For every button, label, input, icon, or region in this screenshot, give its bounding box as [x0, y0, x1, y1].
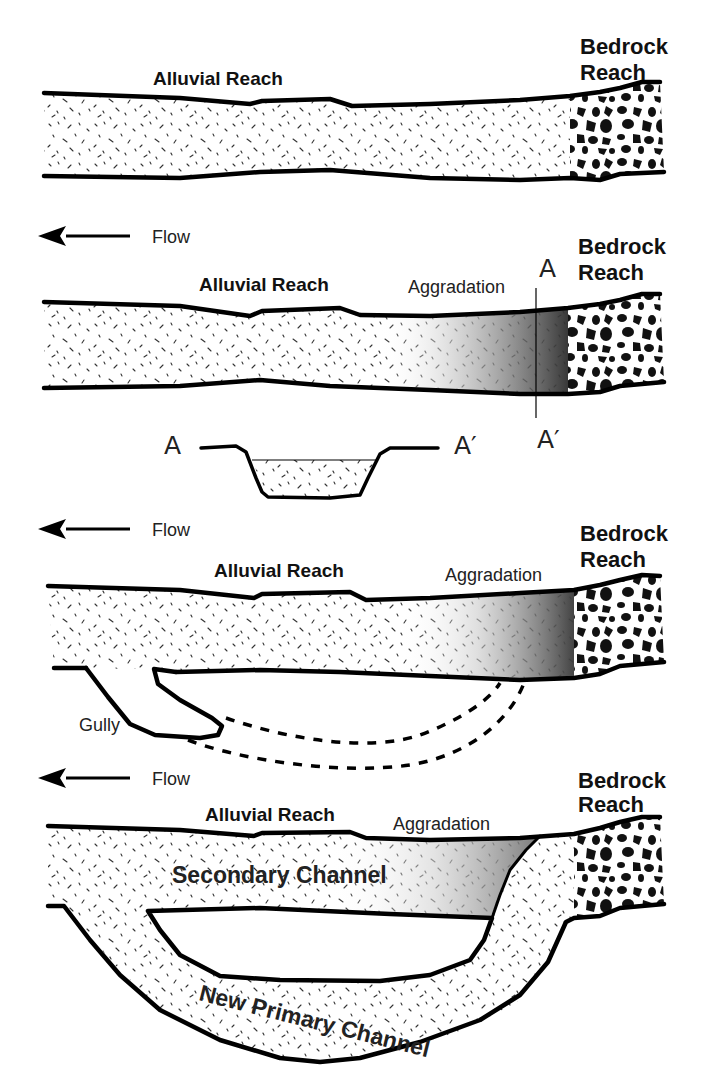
river-channel-evolution-diagram: Alluvial Reach Bedrock Reach Flow A A′ A…: [0, 0, 710, 1086]
alluvial-reach-fill: [44, 93, 570, 180]
flow-label: Flow: [152, 520, 191, 540]
cross-section-fill: [253, 460, 375, 498]
arrow-left-icon: [38, 226, 66, 246]
cross-section-a-a-prime: A A′: [164, 431, 477, 498]
flow-arrow: [38, 519, 130, 539]
flow-arrow: [38, 768, 130, 788]
future-channel-path-outer: [188, 683, 524, 768]
flow-label: Flow: [152, 227, 191, 247]
gully-label: Gully: [79, 715, 120, 735]
bedrock-reach-fill: [568, 294, 664, 394]
bedrock-label-line1: Bedrock: [578, 234, 667, 259]
alluvial-reach-label: Alluvial Reach: [199, 274, 329, 295]
alluvial-reach-label: Alluvial Reach: [205, 804, 335, 825]
panel-3: Flow Gully Alluvial Reach Aggradation Be…: [38, 519, 669, 768]
aggradation-gradient: [400, 590, 574, 680]
bedrock-label-line1: Bedrock: [580, 521, 669, 546]
flow-arrow: [38, 226, 130, 246]
bedrock-label-line1: Bedrock: [578, 768, 667, 793]
cross-section-left-label: A: [164, 431, 181, 460]
bedrock-reach-fill: [570, 82, 664, 180]
alluvial-reach-label: Alluvial Reach: [153, 68, 283, 89]
aggradation-label: Aggradation: [445, 565, 542, 585]
aggradation-label: Aggradation: [393, 814, 490, 834]
secondary-channel-label: Secondary Channel: [172, 862, 387, 888]
aggradation-gradient: [380, 308, 568, 394]
cross-section-right-label: A′: [454, 431, 477, 460]
future-channel-path-inner: [226, 683, 500, 743]
panel-4: Flow Alluvial Reach Aggradation Bedrock …: [38, 768, 667, 1062]
alluvial-reach-label: Alluvial Reach: [214, 560, 344, 581]
bedrock-label-line2: Reach: [580, 60, 646, 85]
aggradation-label: Aggradation: [408, 277, 505, 297]
flow-label: Flow: [152, 769, 191, 789]
arrow-left-icon: [38, 519, 66, 539]
panel-2: Flow A A′ Alluvial Reach Aggradation Bed…: [38, 226, 667, 498]
panel-1: Alluvial Reach Bedrock Reach: [44, 34, 669, 180]
bedrock-label-line2: Reach: [578, 260, 644, 285]
section-label-a-prime: A′: [537, 425, 560, 454]
section-label-a: A: [539, 254, 556, 283]
bedrock-label-line2: Reach: [580, 547, 646, 572]
arrow-left-icon: [38, 768, 66, 788]
bedrock-label-line2: Reach: [578, 792, 644, 817]
bedrock-label-line1: Bedrock: [580, 34, 669, 59]
